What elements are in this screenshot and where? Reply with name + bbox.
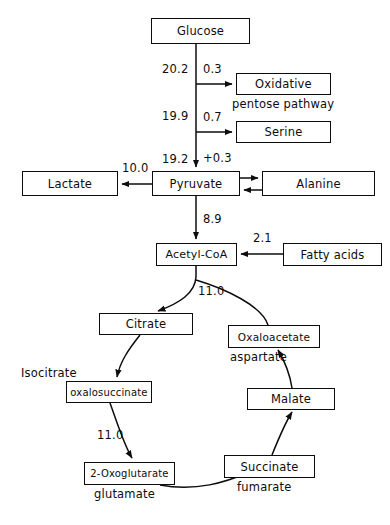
node-oxalosuccinate[interactable]: oxalosuccinate <box>66 381 152 403</box>
node-label: Pyruvate <box>170 177 223 191</box>
flux-label-plus-0-3-alanine: +0.3 <box>203 151 232 165</box>
node-label: Acetyl-CoA <box>166 248 228 261</box>
flux-label-8-9-acetylcoa: 8.9 <box>203 212 222 226</box>
node-label: Oxaloacetate <box>238 331 310 343</box>
node-label: 2-Oxoglutarate <box>90 468 168 479</box>
node-citrate[interactable]: Citrate <box>99 313 193 335</box>
edge-citrate-oxalosuccinate <box>117 335 140 377</box>
label-pentose-pathway: pentose pathway <box>232 97 334 111</box>
flux-label-11-0-citrate: 11.0 <box>198 284 224 298</box>
flux-label-2-1-fattyacids: 2.1 <box>253 231 272 245</box>
node-2-oxoglutarate[interactable]: 2-Oxoglutarate <box>84 462 175 485</box>
node-pyruvate[interactable]: Pyruvate <box>152 171 240 196</box>
node-label: oxalosuccinate <box>70 387 147 398</box>
node-fatty-acids[interactable]: Fatty acids <box>283 243 382 266</box>
node-label: Alanine <box>296 177 340 191</box>
flux-label-0-3-oxidative: 0.3 <box>203 62 222 76</box>
node-label: Fatty acids <box>300 248 364 262</box>
edge-acetylcoa-citrate <box>158 266 196 311</box>
node-glucose[interactable]: Glucose <box>151 18 250 44</box>
node-label: Glucose <box>177 24 224 38</box>
flux-label-0-7-serine: 0.7 <box>203 110 222 124</box>
node-label: Succinate <box>240 460 298 474</box>
label-aspartate: aspartate <box>230 350 287 364</box>
pathway-diagram: Glucose Oxidative Serine Lactate Pyruvat… <box>0 0 390 525</box>
node-label: Citrate <box>126 317 167 331</box>
flux-label-19-2: 19.2 <box>162 152 188 166</box>
flux-label-11-0-oxoglutarate: 11.0 <box>97 428 123 442</box>
label-isocitrate: Isocitrate <box>21 366 77 380</box>
node-acetyl-coa[interactable]: Acetyl-CoA <box>156 243 237 266</box>
node-label: Serine <box>265 125 303 139</box>
node-serine[interactable]: Serine <box>236 121 331 143</box>
node-label: Malate <box>271 392 311 406</box>
node-lactate[interactable]: Lactate <box>22 171 118 196</box>
edge-succinate-malate <box>272 412 292 455</box>
node-succinate[interactable]: Succinate <box>224 455 315 478</box>
flux-label-20-2: 20.2 <box>162 62 188 76</box>
node-label: Lactate <box>48 177 92 191</box>
node-oxidative-pentose-pathway[interactable]: Oxidative <box>236 73 331 95</box>
node-malate[interactable]: Malate <box>247 388 335 410</box>
label-glutamate: glutamate <box>94 487 155 501</box>
flux-label-19-9: 19.9 <box>162 109 188 123</box>
node-label: Oxidative <box>255 77 312 91</box>
label-fumarate: fumarate <box>237 480 292 494</box>
flux-label-10-0-lactate: 10.0 <box>122 161 148 175</box>
node-alanine[interactable]: Alanine <box>262 171 375 196</box>
node-oxaloacetate[interactable]: Oxaloacetate <box>228 325 320 348</box>
